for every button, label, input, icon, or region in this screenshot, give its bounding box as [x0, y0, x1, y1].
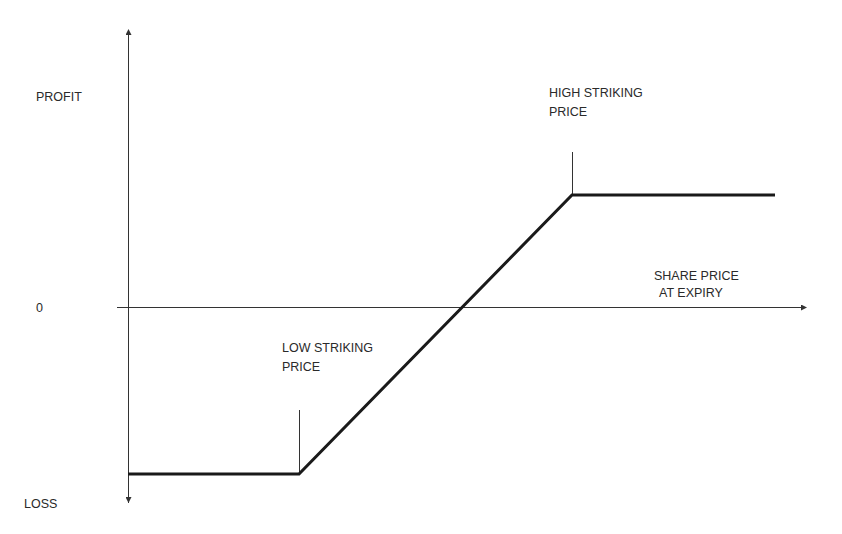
profit-label: PROFIT [36, 90, 82, 104]
low-strike-label-line1: LOW STRIKING [282, 341, 373, 355]
payoff-chart: PROFIT LOSS 0 SHARE PRICE AT EXPIRY LOW … [0, 0, 842, 534]
high-strike-label-line2: PRICE [549, 105, 587, 119]
x-axis-label-line2: AT EXPIRY [659, 286, 724, 300]
zero-label: 0 [36, 301, 43, 315]
high-strike-label-line1: HIGH STRIKING [549, 86, 643, 100]
x-axis-label-line1: SHARE PRICE [654, 269, 739, 283]
payoff-line [128, 195, 775, 474]
loss-label: LOSS [24, 497, 57, 511]
low-strike-label-line2: PRICE [282, 360, 320, 374]
